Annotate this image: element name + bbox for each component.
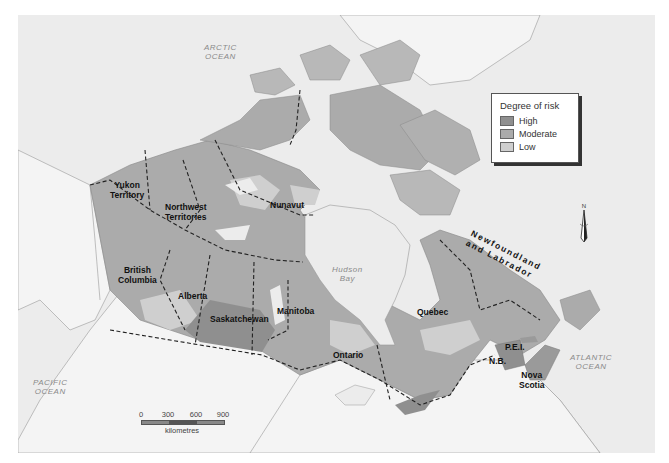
swatch-low — [500, 142, 514, 152]
bc-line1: British — [118, 265, 157, 275]
legend-label-low: Low — [519, 142, 536, 152]
north-arrow-icon: N — [577, 203, 591, 243]
label-quebec: Quebec — [417, 307, 448, 317]
label-alberta: Alberta — [178, 291, 207, 301]
legend-label-moderate: Moderate — [519, 129, 557, 139]
atlantic-line2: OCEAN — [570, 362, 612, 371]
legend-item-high: High — [500, 114, 578, 127]
ns-line1: Nova — [519, 370, 545, 380]
pacific-ocean-label: PACIFIC OCEAN — [33, 378, 67, 396]
scale-tick-900: 900 — [217, 410, 230, 419]
arctic-line1: ARCTIC — [204, 43, 237, 52]
label-northwest-territories: Northwest Territories — [165, 202, 207, 222]
yukon-line2: Territory — [110, 190, 144, 200]
hudson-bay-label: Hudson Bay — [332, 265, 363, 283]
nwt-line1: Northwest — [165, 202, 207, 212]
hudson-line2: Bay — [332, 274, 363, 283]
atlantic-line1: ATLANTIC — [570, 353, 612, 362]
scale-unit: kilometres — [138, 426, 226, 435]
atlantic-ocean-label: ATLANTIC OCEAN — [570, 353, 612, 371]
label-new-brunswick: N.B. — [489, 356, 506, 366]
label-nova-scotia: Nova Scotia — [519, 370, 545, 390]
label-ontario: Ontario — [333, 350, 363, 360]
pacific-line1: PACIFIC — [33, 378, 67, 387]
scale-tick-300: 300 — [162, 410, 175, 419]
pacific-line2: OCEAN — [33, 387, 67, 396]
arctic-ocean-label: ARCTIC OCEAN — [204, 43, 237, 61]
nwt-line2: Territories — [165, 212, 207, 222]
scale-tick-0: 0 — [139, 410, 143, 419]
north-label: N — [577, 203, 591, 210]
arctic-line2: OCEAN — [204, 52, 237, 61]
legend-item-low: Low — [500, 140, 578, 153]
scale-bar: 0 300 600 900 kilometres — [138, 410, 228, 435]
label-manitoba: Manitoba — [277, 306, 314, 316]
canada-risk-map — [18, 15, 655, 453]
label-yukon: Yukon Territory — [110, 180, 144, 200]
compass-needle-icon — [577, 210, 591, 242]
swatch-moderate — [500, 129, 514, 139]
scale-tick-600: 600 — [190, 410, 203, 419]
scale-ticks: 0 300 600 900 — [138, 410, 228, 420]
legend: Degree of risk High Moderate Low — [491, 93, 579, 163]
legend-label-high: High — [519, 116, 538, 126]
hudson-line1: Hudson — [332, 265, 363, 274]
label-nunavut: Nunavut — [270, 200, 304, 210]
yukon-line1: Yukon — [110, 180, 144, 190]
legend-title: Degree of risk — [500, 100, 578, 111]
label-british-columbia: British Columbia — [118, 265, 157, 285]
map-frame — [18, 15, 655, 453]
swatch-high — [500, 116, 514, 126]
bc-line2: Columbia — [118, 275, 157, 285]
ns-line2: Scotia — [519, 380, 545, 390]
label-pei: P.E.I. — [505, 342, 525, 352]
legend-item-moderate: Moderate — [500, 127, 578, 140]
label-saskatchewan: Saskatchewan — [210, 314, 269, 324]
scale-bar-graphic — [141, 420, 225, 425]
